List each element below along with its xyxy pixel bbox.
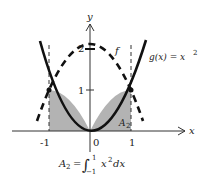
region-label: A xyxy=(118,118,126,128)
integral-formula: A 2 = ∫ 1 −1 x 2 dx xyxy=(58,154,125,176)
y-tick-label-2: 2 xyxy=(78,43,84,54)
intersection-point-left xyxy=(47,88,52,93)
f-label: f xyxy=(114,45,121,56)
area-diagram: y x 2 1 -1 0 1 f g(x) = x 2 A 2 A 2 = ∫ … xyxy=(0,0,205,180)
formula-lhs-sub: 2 xyxy=(66,163,70,171)
x-tick-label-1: 1 xyxy=(129,137,135,148)
formula-upper-limit: 1 xyxy=(92,154,96,162)
region-label-sub: 2 xyxy=(126,122,130,130)
formula-lower-limit: −1 xyxy=(86,168,96,176)
x-tick-label-0: 0 xyxy=(93,137,99,148)
x-tick-label-neg1: -1 xyxy=(40,137,50,148)
y-axis-label: y xyxy=(86,11,93,22)
y-tick-label-1: 1 xyxy=(78,85,84,96)
formula-integrand-exp: 2 xyxy=(108,156,112,164)
formula-integrand: x xyxy=(101,158,107,169)
g-label: g(x) = x xyxy=(149,52,185,62)
intersection-point-right xyxy=(129,88,134,93)
formula-lhs: A xyxy=(58,158,66,169)
formula-dx: dx xyxy=(113,158,125,169)
g-label-exponent: 2 xyxy=(193,49,197,57)
x-axis-label: x xyxy=(189,125,195,136)
formula-equals: = xyxy=(73,158,81,169)
